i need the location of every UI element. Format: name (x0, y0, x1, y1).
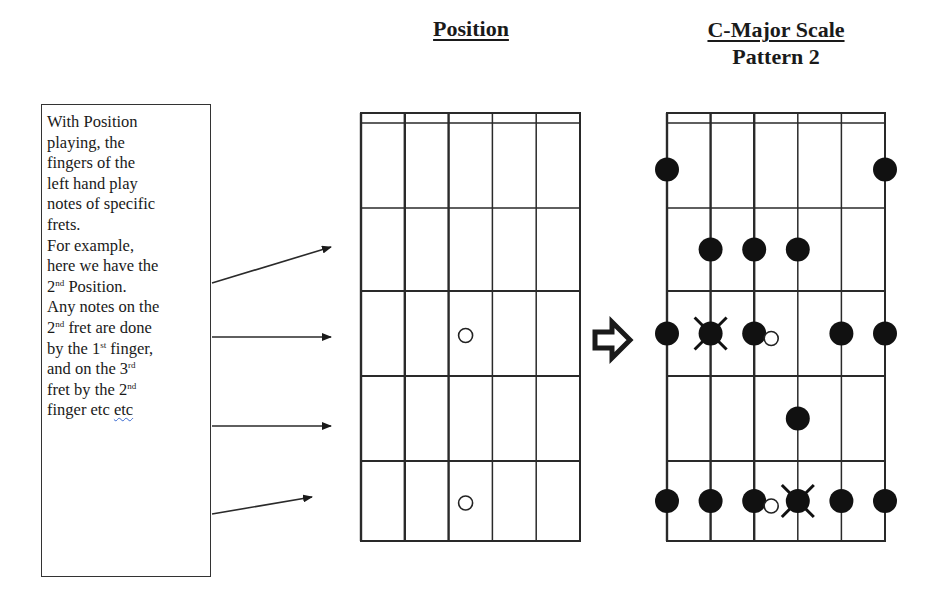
root-note-dot (786, 489, 810, 513)
scale-note-dot (742, 322, 766, 346)
position-fretboard (361, 113, 580, 541)
arrow-icon (212, 247, 331, 283)
scale-note-dot (829, 489, 853, 513)
scale-note-dot (786, 407, 810, 431)
scale-note-dot (699, 489, 723, 513)
scale-note-dot (655, 158, 679, 182)
scale-note-dot (655, 322, 679, 346)
scale-note-dot (829, 322, 853, 346)
fretboard-outline (361, 113, 580, 541)
scale-note-dot (699, 238, 723, 262)
scale-note-dot (873, 158, 897, 182)
pointer-arrows (212, 247, 331, 514)
open-position-marker (764, 499, 778, 513)
scale-note-dot (873, 322, 897, 346)
open-position-marker (459, 329, 473, 343)
root-note-dot (699, 322, 723, 346)
arrow-icon (212, 497, 312, 514)
open-position-marker (764, 332, 778, 346)
fretboard-outline (667, 113, 885, 541)
c-major-fretboard (655, 113, 897, 541)
scale-note-dot (742, 238, 766, 262)
scale-note-dot (873, 489, 897, 513)
scale-note-dot (742, 489, 766, 513)
outlined-right-arrow-icon (595, 322, 630, 358)
diagram-canvas (0, 0, 929, 592)
scale-note-dot (786, 238, 810, 262)
scale-note-dot (655, 489, 679, 513)
open-position-marker (459, 496, 473, 510)
